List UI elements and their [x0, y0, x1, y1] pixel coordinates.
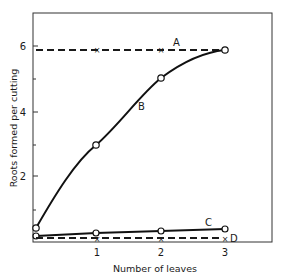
- x-tick-label-1: 1: [94, 247, 100, 258]
- plot-frame: [33, 13, 272, 242]
- y-tick-label-6: 6: [20, 41, 26, 52]
- marker-circle-icon: [222, 47, 228, 53]
- y-tick-label-2: 2: [20, 171, 26, 182]
- series-c: C: [33, 217, 228, 239]
- chart: 6 4 2 1 2 3 Number of leaves Roots forme…: [0, 0, 281, 280]
- marker-circle-icon: [33, 225, 39, 231]
- marker-x-icon: ×: [94, 46, 101, 55]
- series-label-d: D: [230, 233, 238, 244]
- x-tick-label-2: 2: [158, 247, 164, 258]
- x-tick-label-3: 3: [222, 247, 228, 258]
- series-label-b: B: [138, 101, 145, 112]
- marker-x-icon: ×: [158, 235, 165, 244]
- marker-circle-icon: [158, 228, 164, 234]
- series-a: × × A: [36, 37, 222, 55]
- y-tick-label-4: 4: [20, 107, 26, 118]
- marker-x-icon: ×: [222, 235, 229, 244]
- y-ticks: [33, 46, 38, 210]
- marker-circle-icon: [158, 75, 164, 81]
- series-label-c: C: [205, 217, 212, 228]
- marker-x-icon: ×: [94, 235, 101, 244]
- marker-circle-icon: [222, 226, 228, 232]
- marker-circle-icon: [93, 142, 99, 148]
- marker-x-icon: ×: [158, 46, 165, 55]
- series-b: B: [33, 47, 228, 231]
- y-axis-label: Roots formed per cutting: [8, 69, 19, 188]
- x-axis-label: Number of leaves: [113, 263, 197, 274]
- series-label-a: A: [173, 37, 180, 48]
